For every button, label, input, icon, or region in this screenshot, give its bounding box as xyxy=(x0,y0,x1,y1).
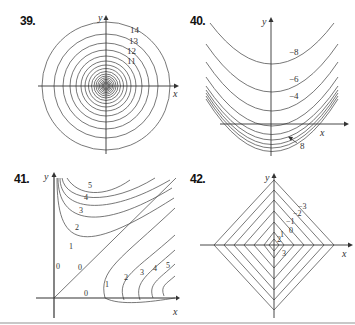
diamond-contours-plot: y x −3 −2 −1 0 1 2 3 xyxy=(178,160,355,322)
level-label: 0 xyxy=(78,263,82,272)
level-label: 5 xyxy=(166,261,170,270)
level-label: 5 xyxy=(88,181,92,190)
level-label: 2 xyxy=(75,223,79,232)
level-label: −8 xyxy=(289,47,299,57)
level-label: 3 xyxy=(282,249,286,258)
level-label: 4 xyxy=(153,264,157,273)
level-label: 3 xyxy=(79,206,83,215)
level-label: 11 xyxy=(127,56,136,66)
figure-42: 42. y x −3 −2 −1 0 1 2 3 xyxy=(178,160,355,322)
level-label: 1 xyxy=(69,242,73,251)
level-label: 4 xyxy=(84,193,88,202)
level-label: 13 xyxy=(129,36,139,46)
level-label: 0 xyxy=(289,226,293,235)
figure-41: 41. y x 5 4 3 2 1 1 2 3 4 xyxy=(0,160,178,322)
y-axis-label: y xyxy=(261,16,267,27)
level-label: −6 xyxy=(289,74,299,84)
x-axis-label: x xyxy=(341,248,347,259)
y-axis-label: y xyxy=(43,171,49,182)
level-label: −4 xyxy=(289,91,299,101)
y-axis-label: y xyxy=(264,172,270,183)
level-label: 0 xyxy=(84,289,88,298)
parabola-contours-plot: y x −8 −6 −4 8 xyxy=(178,0,355,160)
x-axis-label: x xyxy=(319,127,325,138)
y-axis-label: y xyxy=(97,12,103,23)
hyperbolic-contours-plot: y x 5 4 3 2 1 1 2 3 4 5 0 0 0 xyxy=(0,160,178,322)
level-label: 8 xyxy=(300,141,305,151)
level-label: −1 xyxy=(286,217,295,226)
level-label: 12 xyxy=(127,46,136,56)
figure-39: 39. y x 14 13 xyxy=(0,0,178,160)
level-label: 2 xyxy=(277,235,281,244)
level-label: 1 xyxy=(105,280,109,289)
level-label: 2 xyxy=(124,273,128,282)
bottom-divider xyxy=(0,322,355,324)
level-label: 3 xyxy=(140,268,144,277)
concentric-circles-plot: y x 14 13 12 11 xyxy=(0,0,178,160)
figure-40: 40. y x −8 −6 −4 8 xyxy=(178,0,355,160)
level-label: 0 xyxy=(56,262,60,271)
level-label: 14 xyxy=(130,25,140,35)
